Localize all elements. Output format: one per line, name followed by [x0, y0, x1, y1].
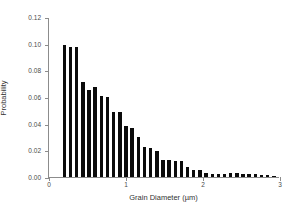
bar	[192, 170, 195, 177]
bar	[63, 45, 66, 177]
bar	[204, 173, 207, 177]
bar	[118, 112, 121, 177]
y-tick-mark	[45, 151, 49, 152]
bar	[254, 174, 257, 177]
bar	[149, 148, 152, 177]
bar	[266, 175, 269, 177]
bar	[174, 161, 177, 177]
y-tick-mark	[45, 45, 49, 46]
bar	[143, 147, 146, 177]
bar	[217, 174, 220, 177]
bar	[198, 170, 201, 177]
x-axis-title: Grain Diameter (µm)	[48, 194, 279, 202]
y-tick-label: 0.08	[28, 68, 41, 75]
bar	[155, 151, 158, 177]
bar	[223, 174, 226, 177]
bar	[260, 175, 263, 177]
bar	[272, 176, 275, 177]
y-axis-title: Probability	[0, 80, 8, 115]
bar	[87, 90, 90, 177]
bar	[93, 87, 96, 177]
y-tick-label: 0.04	[28, 121, 41, 128]
bar	[124, 126, 127, 177]
bar	[229, 173, 232, 177]
y-tick-label: 0.10	[28, 41, 41, 48]
bar	[247, 174, 250, 177]
y-tick-label: 0.02	[28, 148, 41, 155]
bar	[211, 174, 214, 177]
y-tick-label: 0.00	[28, 175, 41, 182]
bar	[100, 96, 103, 177]
bar	[137, 137, 140, 177]
bar	[81, 82, 84, 177]
x-tick-label: 0	[47, 182, 51, 189]
bar	[167, 160, 170, 177]
y-tick-label: 0.12	[28, 15, 41, 22]
x-tick-label: 3	[278, 182, 282, 189]
bar	[75, 47, 78, 177]
bar	[69, 47, 72, 177]
y-tick-mark	[45, 98, 49, 99]
x-tick-label: 2	[201, 182, 205, 189]
bar	[241, 174, 244, 177]
bar-series	[49, 18, 279, 177]
y-tick-label: 0.06	[28, 95, 41, 102]
y-tick-mark	[45, 71, 49, 72]
chart-figure: 0.000.020.040.060.080.100.12 0123 Grain …	[0, 0, 284, 211]
bar	[235, 173, 238, 177]
bar	[186, 167, 189, 177]
x-tick-label: 1	[124, 182, 128, 189]
plot-area: 0.000.020.040.060.080.100.12 0123	[48, 18, 279, 178]
bar	[180, 161, 183, 177]
bar	[106, 97, 109, 177]
bar	[130, 128, 133, 177]
y-tick-mark	[45, 18, 49, 19]
bar	[112, 112, 115, 177]
bar	[161, 160, 164, 177]
y-tick-mark	[45, 125, 49, 126]
